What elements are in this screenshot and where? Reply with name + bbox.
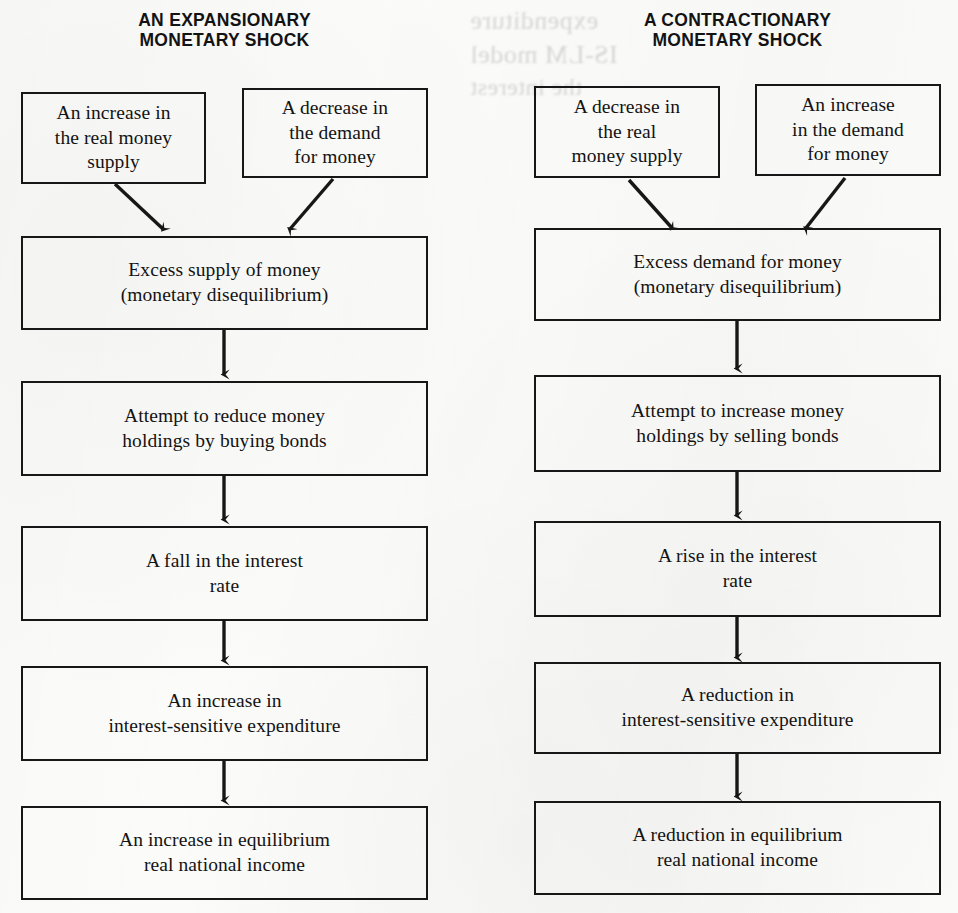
node-contractionary-src-a: A decrease in the real money supply	[534, 86, 720, 178]
node-label: Excess demand for money (monetary disequ…	[627, 250, 848, 299]
node-label: Excess supply of money (monetary disequi…	[115, 258, 335, 307]
node-expansionary-step-3: A fall in the interest rate	[21, 526, 428, 621]
column-title-expansionary-line2: MONETARY SHOCK	[21, 30, 428, 50]
node-expansionary-step-1: Excess supply of money (monetary disequi…	[21, 236, 428, 330]
node-label: A fall in the interest rate	[140, 549, 309, 598]
node-expansionary-src-b: A decrease in the demand for money	[242, 88, 428, 178]
node-label: A rise in the interest rate	[652, 544, 823, 593]
node-label: An increase in interest-sensitive expend…	[102, 689, 346, 738]
column-title-expansionary-line1: AN EXPANSIONARY	[21, 10, 428, 30]
node-label: Attempt to reduce money holdings by buyi…	[116, 404, 332, 453]
node-contractionary-step-3: A rise in the interest rate	[534, 521, 941, 617]
node-label: A reduction in equilibrium real national…	[626, 823, 848, 872]
column-title-contractionary-line1: A CONTRACTIONARY	[534, 10, 941, 30]
node-label: A decrease in the real money supply	[565, 95, 688, 169]
node-contractionary-step-2: Attempt to increase money holdings by se…	[534, 375, 941, 472]
node-contractionary-step-1: Excess demand for money (monetary disequ…	[534, 228, 941, 321]
node-label: An increase in the real money supply	[49, 101, 178, 175]
node-contractionary-step-4: A reduction in interest-sensitive expend…	[534, 662, 941, 754]
node-label: A decrease in the demand for money	[276, 96, 394, 170]
node-contractionary-step-5: A reduction in equilibrium real national…	[534, 801, 941, 895]
column-title-contractionary: A CONTRACTIONARY MONETARY SHOCK	[534, 10, 941, 51]
column-title-expansionary: AN EXPANSIONARY MONETARY SHOCK	[21, 10, 428, 51]
flowchart-page: expenditure IS-LM model the interest AN …	[0, 0, 958, 913]
node-contractionary-src-b: An increase in the demand for money	[755, 84, 941, 176]
node-expansionary-src-a: An increase in the real money supply	[21, 92, 206, 184]
node-expansionary-step-4: An increase in interest-sensitive expend…	[21, 666, 428, 761]
node-label: A reduction in interest-sensitive expend…	[615, 683, 859, 732]
node-expansionary-step-2: Attempt to reduce money holdings by buyi…	[21, 381, 428, 476]
node-label: An increase in the demand for money	[786, 93, 910, 167]
column-title-contractionary-line2: MONETARY SHOCK	[534, 30, 941, 50]
node-label: An increase in equilibrium real national…	[113, 828, 336, 877]
node-expansionary-step-5: An increase in equilibrium real national…	[21, 806, 428, 900]
node-label: Attempt to increase money holdings by se…	[625, 399, 850, 448]
